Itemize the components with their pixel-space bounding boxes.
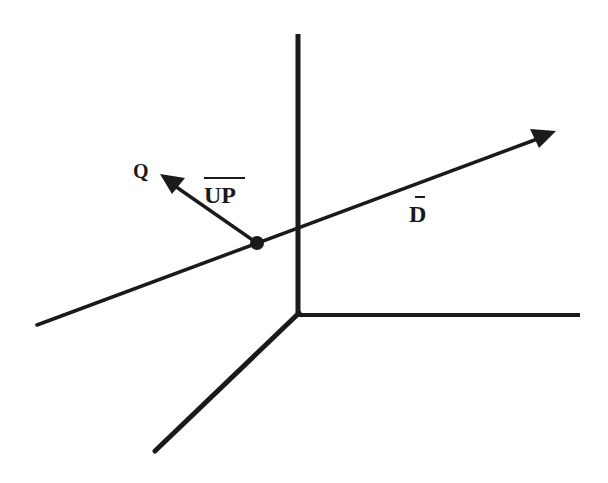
depth-axis [155,313,299,451]
direction-vector-line [37,138,540,325]
label-d: D [409,201,426,227]
label-q: Q [133,160,149,182]
origin-point-P [250,236,264,250]
vector-diagram: Q UP D [0,0,608,483]
label-up: UP [204,182,236,208]
